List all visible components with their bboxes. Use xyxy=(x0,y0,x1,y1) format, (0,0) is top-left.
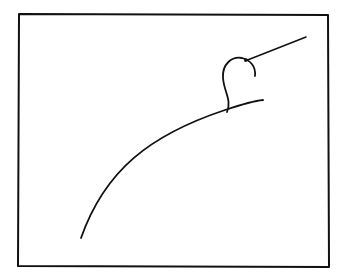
sketch-drawing xyxy=(0,0,342,273)
sketch-canvas xyxy=(0,0,342,273)
ray-line xyxy=(245,37,306,61)
arc-surface-line xyxy=(81,100,263,238)
frame-rectangle xyxy=(18,14,329,267)
ray-junction-dot xyxy=(244,58,248,62)
hook-figure-line xyxy=(223,58,255,112)
